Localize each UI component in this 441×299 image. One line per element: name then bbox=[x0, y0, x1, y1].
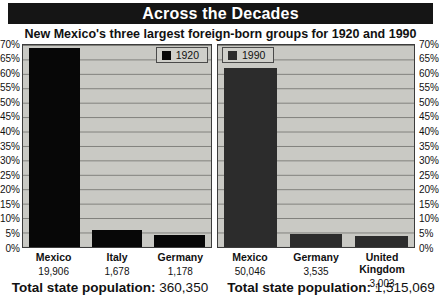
y-axis-tick: 25% bbox=[0, 170, 21, 181]
y-axis-tick: 35% bbox=[0, 141, 21, 152]
y-axis-tick: 15% bbox=[0, 199, 21, 210]
y-axis-right: 70%65%60%55%50%45%40%35%30%25%20%15%10%5… bbox=[418, 44, 441, 248]
bars-1920 bbox=[23, 45, 211, 247]
category-count: 1,678 bbox=[85, 266, 148, 277]
legend-1990: 1990 bbox=[222, 47, 274, 63]
category-count: 19,906 bbox=[22, 266, 85, 277]
y-axis-tick: 5% bbox=[418, 228, 441, 239]
chart-subtitle: New Mexico's three largest foreign-born … bbox=[0, 27, 441, 41]
category-name: Mexico bbox=[22, 251, 85, 263]
y-axis-tick: 10% bbox=[0, 213, 21, 224]
y-axis-tick: 40% bbox=[418, 126, 441, 137]
y-axis-left: 70%65%60%55%50%45%40%35%30%25%20%15%10%5… bbox=[0, 44, 20, 248]
legend-swatch-1990 bbox=[228, 51, 237, 60]
category-name: United Kingdom bbox=[349, 251, 415, 275]
y-axis-tick: 45% bbox=[418, 111, 441, 122]
y-axis-tick: 70% bbox=[418, 39, 441, 50]
bar-1920-germany bbox=[154, 235, 205, 247]
y-axis-tick: 25% bbox=[418, 170, 441, 181]
y-axis-tick: 50% bbox=[0, 97, 21, 108]
category-name: Germany bbox=[149, 251, 212, 263]
y-axis-tick: 40% bbox=[0, 126, 21, 137]
y-axis-tick: 65% bbox=[418, 53, 441, 64]
category-name: Mexico bbox=[217, 251, 283, 263]
category-count: 1,178 bbox=[149, 266, 212, 277]
category-count: 3,535 bbox=[283, 266, 349, 277]
y-axis-tick: 30% bbox=[418, 155, 441, 166]
y-axis-tick: 0% bbox=[418, 243, 441, 254]
y-axis-tick: 55% bbox=[418, 82, 441, 93]
y-axis-tick: 20% bbox=[0, 184, 21, 195]
chart-panel-1920: 1920 bbox=[22, 44, 212, 248]
y-axis-tick: 0% bbox=[0, 243, 21, 254]
total-value: 360,350 bbox=[159, 280, 208, 295]
bar-1990-mexico bbox=[224, 68, 277, 247]
y-axis-tick: 45% bbox=[0, 111, 21, 122]
bar-1990-united-kingdom bbox=[355, 236, 408, 247]
total-value: 1,515,069 bbox=[375, 280, 435, 295]
y-axis-tick: 60% bbox=[0, 68, 21, 79]
y-axis-tick: 15% bbox=[418, 199, 441, 210]
total-label: Total state population: bbox=[227, 280, 371, 295]
y-axis-tick: 30% bbox=[0, 155, 21, 166]
category-germany-1920: Germany 1,178 bbox=[149, 251, 212, 277]
y-axis-tick: 65% bbox=[0, 53, 21, 64]
y-axis-tick: 20% bbox=[418, 184, 441, 195]
y-axis-tick: 55% bbox=[0, 82, 21, 93]
legend-1920: 1920 bbox=[156, 47, 208, 63]
category-labels-1920: Mexico 19,906 Italy 1,678 Germany 1,178 bbox=[22, 251, 212, 277]
y-axis-tick: 35% bbox=[418, 141, 441, 152]
total-population-1920: Total state population: 360,350 bbox=[0, 280, 220, 295]
legend-label-1990: 1990 bbox=[242, 49, 265, 61]
infographic: Across the Decades New Mexico's three la… bbox=[0, 0, 441, 299]
bar-1920-mexico bbox=[29, 48, 80, 247]
y-axis-tick: 60% bbox=[418, 68, 441, 79]
legend-label-1920: 1920 bbox=[176, 49, 199, 61]
y-axis-tick: 10% bbox=[418, 213, 441, 224]
category-name: Germany bbox=[283, 251, 349, 263]
category-mexico-1920: Mexico 19,906 bbox=[22, 251, 85, 277]
chart-panel-1990: 1990 bbox=[217, 44, 415, 248]
y-axis-tick: 5% bbox=[0, 228, 21, 239]
y-axis-tick: 70% bbox=[0, 39, 21, 50]
total-label: Total state population: bbox=[12, 280, 156, 295]
total-population-1990: Total state population: 1,515,069 bbox=[221, 280, 441, 295]
bar-1920-italy bbox=[92, 230, 143, 247]
title-banner: Across the Decades bbox=[8, 3, 433, 24]
bar-1990-germany bbox=[290, 234, 343, 247]
y-axis-tick: 50% bbox=[418, 97, 441, 108]
category-italy-1920: Italy 1,678 bbox=[85, 251, 148, 277]
legend-swatch-1920 bbox=[162, 51, 171, 60]
bars-1990 bbox=[218, 45, 414, 247]
category-name: Italy bbox=[85, 251, 148, 263]
category-count: 50,046 bbox=[217, 266, 283, 277]
